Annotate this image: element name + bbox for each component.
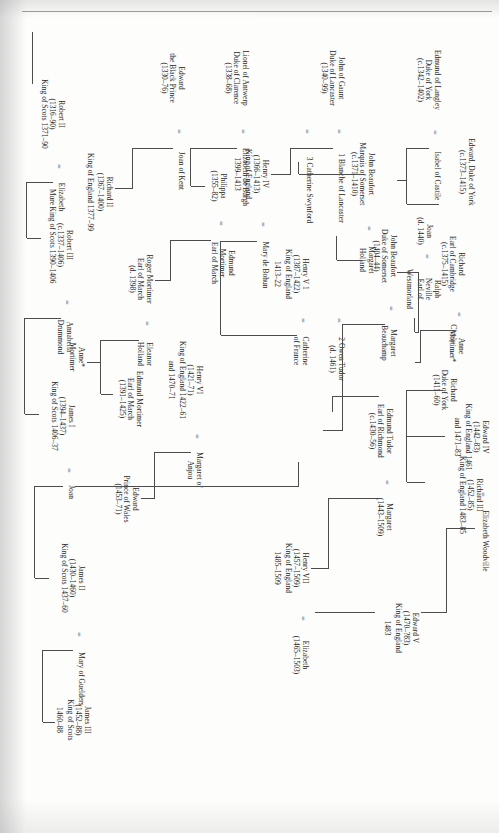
person-edmund-mortimer-1391: Edmund Mortimer Earl of March (1391–1425… xyxy=(116,356,142,442)
marriage-equals-16: = xyxy=(430,130,438,135)
connector-line xyxy=(221,241,257,242)
person-dates: (1404–44) xyxy=(370,208,379,304)
person-edmund-mortimer-earl-of-march: Edmund Mortimer Earl of March xyxy=(208,228,234,298)
person-name: Lionel of Antwerp xyxy=(240,32,249,124)
scanned-page: Edward the Black Prince (1330–76) = Joan… xyxy=(0,0,499,833)
person-title: Drummond xyxy=(55,306,64,368)
marriage-equals-8: = xyxy=(298,318,306,323)
connector-line xyxy=(397,180,407,181)
connector-line xyxy=(323,430,343,431)
person-reign: King of Scots 1390–1406 xyxy=(46,192,55,298)
connector-line xyxy=(27,182,53,183)
connector-line xyxy=(406,148,407,204)
person-name: Edward, Duke of York xyxy=(466,118,475,226)
person-richard-ii: Richard II (1367–1400) King of England 1… xyxy=(85,140,113,244)
person-name: Catherine xyxy=(300,324,309,378)
person-dates: (1338–68) xyxy=(222,32,231,124)
marriage-equals-12: = xyxy=(386,306,394,311)
connector-line xyxy=(337,260,363,261)
connector-line xyxy=(154,452,155,498)
connector-line xyxy=(190,148,191,186)
person-name: Edmund Mortimer xyxy=(134,356,143,442)
connector-line xyxy=(407,390,443,391)
person-name: Edward V xyxy=(410,582,419,674)
marriage-equals-9: = xyxy=(334,318,342,323)
connector-line xyxy=(75,486,299,487)
person-name: John of Gaunt xyxy=(336,32,345,124)
person-reign-2: and 1470–71 xyxy=(166,328,175,432)
connector-line xyxy=(298,162,299,174)
connector-line xyxy=(155,452,191,453)
connector-line xyxy=(191,186,205,187)
person-name: Edward xyxy=(176,32,185,124)
person-john-beaufort-duke: John Beaufort Duke of Somerset (1404–44) xyxy=(370,208,396,304)
person-name: Mary de Bohun xyxy=(260,229,269,301)
person-dates: (1443–1509) xyxy=(375,486,384,548)
person-james-iii: James III (1452–88) King of Scots 1460–8… xyxy=(54,674,90,766)
connector-line xyxy=(414,318,415,332)
person-edward-prince-of-wales: Edward Prince of Wales (1453–71) xyxy=(112,454,138,544)
marriage-equals-23: = xyxy=(74,632,82,637)
person-margaret-beauchamp: Margaret Beauchamp xyxy=(379,312,396,374)
person-richard-earl-of-cambridge: Richard Earl of Cambridge (c.1375–1415) xyxy=(438,218,464,310)
person-joan-beaufort-scots: Joan xyxy=(66,474,75,510)
connector-line xyxy=(141,498,155,499)
connector-line xyxy=(332,396,333,412)
connector-line xyxy=(101,394,113,395)
person-name: Richard III xyxy=(474,440,483,550)
connector-line xyxy=(35,486,63,487)
person-name: Anne* xyxy=(76,328,85,386)
connector-line xyxy=(155,280,171,281)
marriage-equals-1: = xyxy=(174,129,182,134)
person-roger-mortimer: Roger Mortimer Earl of March (d. 1398) xyxy=(126,240,152,318)
person-name: Henry VI xyxy=(194,328,203,432)
person-henry-v: Henry V 1 (1387–1422) King of England 14… xyxy=(272,232,308,316)
person-dates: (1465–1503) xyxy=(291,622,300,688)
person-name: Henry IV xyxy=(260,128,269,220)
connector-line xyxy=(415,362,421,363)
person-name: Philippa xyxy=(218,154,227,218)
person-subtitle: Earl of March xyxy=(208,228,217,298)
person-joan-of-kent: Joan of Kent xyxy=(176,136,185,206)
person-reign: King of Scots 1437–60 xyxy=(58,526,67,630)
connector-line xyxy=(171,240,211,241)
connector-line xyxy=(342,324,343,430)
person-name: Joan xyxy=(424,210,433,252)
person-robert-iii: Robert III (c.1337–1406) King of Scots 1… xyxy=(46,192,72,298)
connector-line xyxy=(407,204,439,205)
person-dates: (c.1430–56) xyxy=(366,384,375,478)
person-name: Robert II xyxy=(56,66,65,162)
person-edmund-of-langley: Edmund of Langley Duke of York (c.1342–1… xyxy=(414,32,440,128)
connector-line xyxy=(333,396,379,397)
person-margaret-beaufort: Margaret (1443–1509) xyxy=(375,486,392,548)
person-edward-black-prince: Edward the Black Prince (1330–76) xyxy=(158,32,184,124)
connector-line xyxy=(407,436,445,437)
marriage-equals-18: = xyxy=(446,350,454,355)
marriage-equals-4: = xyxy=(142,321,150,326)
person-reign-years: 1485–1509 xyxy=(272,522,281,614)
marriage-equals-20: = xyxy=(54,164,62,169)
person-name: James II xyxy=(76,526,85,630)
person-dates: (1340–99) xyxy=(318,32,327,124)
person-edmund-tudor: Edmund Tudor Earl of Richmond (c.1430–56… xyxy=(366,384,392,478)
marriage-equals-21: = xyxy=(62,300,70,305)
connector-line xyxy=(447,528,475,529)
person-title: Anjou xyxy=(185,440,194,500)
person-name: James I xyxy=(66,366,75,466)
person-reign: King of England xyxy=(282,232,291,316)
connector-line xyxy=(315,612,375,613)
connector-line xyxy=(34,486,35,578)
person-name: 1 Blanche of Lancaster xyxy=(336,136,345,240)
person-dates: (1453–71) xyxy=(112,454,121,544)
person-reign: King of England 1377–99 xyxy=(85,140,94,244)
person-name: Margaret of xyxy=(194,440,203,500)
person-dates: (1391–1425) xyxy=(116,356,125,442)
person-name: Edmund xyxy=(226,228,235,298)
person-dates: (d. 1461) xyxy=(327,324,336,394)
family-tree-chart: Edward the Black Prince (1330–76) = Joan… xyxy=(15,22,485,812)
person-james-ii: James II (1430–1460) King of Scots 1437–… xyxy=(58,526,84,630)
connector-line xyxy=(43,650,73,651)
marriage-equals-22: = xyxy=(64,468,72,473)
connector-line xyxy=(421,612,447,613)
connector-line xyxy=(407,148,429,149)
